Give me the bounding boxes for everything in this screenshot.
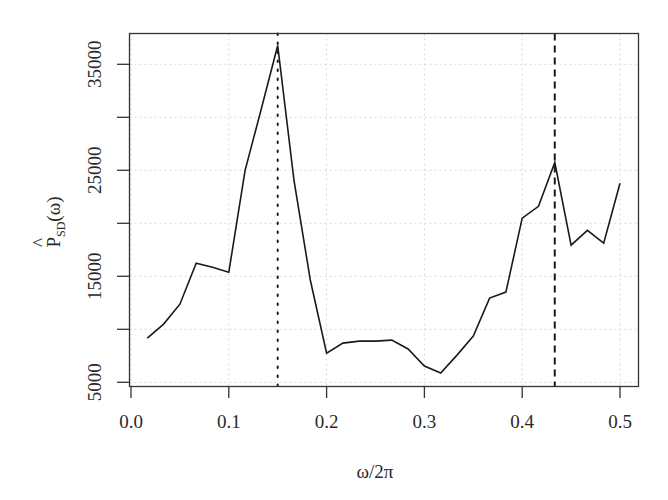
y-tick-label: 15000	[84, 253, 105, 301]
y-axis: 5000150002500035000	[84, 41, 130, 402]
x-axis-title: ω/2π	[357, 461, 394, 482]
y-tick-label: 35000	[84, 41, 105, 89]
y-axis-title: PSD(ω) ^	[29, 196, 68, 247]
x-tick-label: 0.1	[217, 411, 241, 432]
x-tick-label: 0.0	[119, 411, 143, 432]
y-tick-label: 5000	[84, 363, 105, 401]
x-tick-label: 0.4	[510, 411, 534, 432]
spectral-density-chart: 0.00.10.20.30.40.5 5000150002500035000 ω…	[0, 0, 668, 500]
x-tick-label: 0.2	[315, 411, 339, 432]
plot-frame	[130, 34, 639, 387]
y-tick-label: 25000	[84, 147, 105, 195]
spectral-density-line	[147, 46, 620, 374]
y-axis-title-suffix: (ω)	[43, 196, 65, 221]
reference-lines	[278, 34, 555, 387]
x-axis: 0.00.10.20.30.40.5	[119, 387, 632, 433]
y-axis-title-subscript: SD	[54, 221, 68, 237]
grid-lines	[130, 34, 639, 387]
x-tick-label: 0.5	[608, 411, 632, 432]
x-tick-label: 0.3	[413, 411, 437, 432]
y-axis-title-hat: ^	[29, 238, 50, 247]
